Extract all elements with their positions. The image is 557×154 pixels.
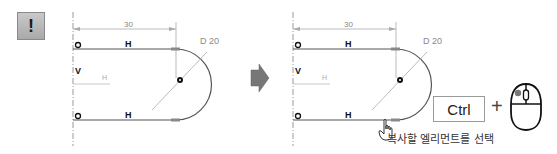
dimension-diameter-label: D 20 [423, 36, 442, 46]
horizontal-constraint-top: H [345, 39, 352, 49]
vertical-constraint: V [295, 66, 301, 76]
ctrl-key-icon: Ctrl [433, 96, 485, 122]
mouse-left-click-icon [509, 82, 543, 132]
axis-label: H [322, 74, 327, 81]
dimension-length-label: 30 [344, 20, 353, 29]
horizontal-constraint-bottom: H [345, 110, 352, 120]
instruction-caption: 복사할 엘리먼트를 선택 [387, 130, 494, 146]
plus-sign: + [491, 95, 503, 118]
